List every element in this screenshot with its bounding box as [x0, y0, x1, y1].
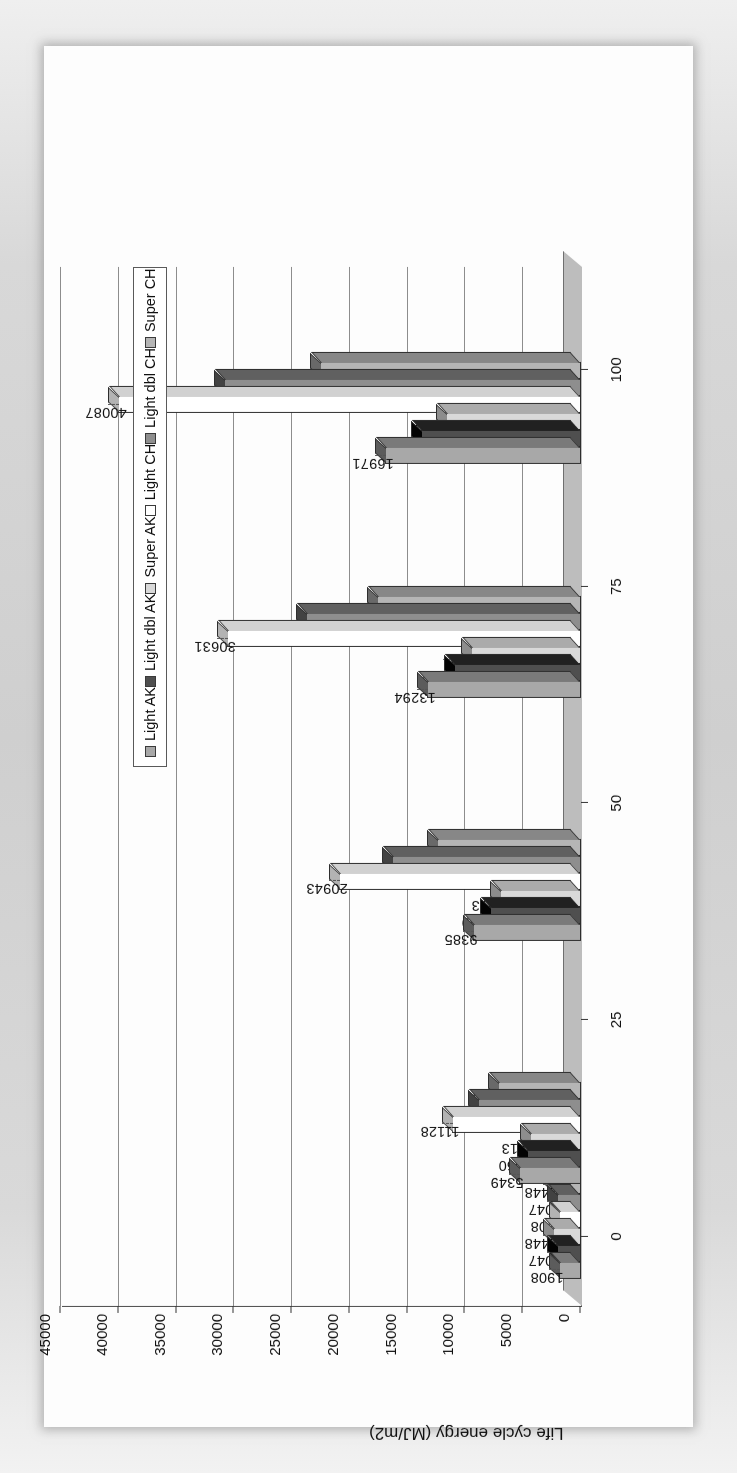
bar-value-label: 1908: [530, 1271, 563, 1287]
y-tick-label: 5000: [498, 1314, 515, 1347]
legend-item-label: Light dbl CH: [142, 348, 158, 428]
y-tick-label: 0: [556, 1314, 573, 1322]
y-tick-mark: [291, 1306, 292, 1313]
bar-side-face: [109, 386, 580, 397]
legend-item-label: Light CH: [142, 444, 158, 500]
bar-side-face: [376, 437, 580, 448]
bar-side-face: [445, 654, 580, 665]
chart-paper: 0500010000150002000025000300003500040000…: [44, 46, 693, 1427]
y-tick-mark: [522, 1306, 523, 1313]
legend-item[interactable]: Light CH: [142, 444, 158, 516]
legend-item-label: Light dbl AK: [142, 594, 158, 671]
y-tick-label: 35000: [151, 1314, 168, 1356]
x-tick-mark: [581, 586, 588, 587]
y-tick-label: 30000: [209, 1314, 226, 1356]
x-tick-mark: [581, 802, 588, 803]
gridline: [349, 267, 350, 1306]
bar-side-face: [481, 897, 580, 908]
bar-side-face: [464, 914, 580, 925]
legend-item[interactable]: Light AK: [142, 687, 158, 757]
bar-side-face: [418, 671, 580, 682]
x-tick-label: 50: [607, 795, 624, 812]
chart-figure: 0500010000150002000025000300003500040000…: [44, 46, 693, 1427]
bar-side-face: [428, 829, 580, 840]
y-tick-label: 20000: [324, 1314, 341, 1356]
bar-value-label: 40087: [85, 405, 126, 421]
chart-legend: Light AKLight dbl AKSuper AKLight CHLigh…: [133, 267, 167, 767]
bar-light-ak: 16971: [385, 447, 581, 464]
y-tick-mark: [175, 1306, 176, 1313]
bar-side-face: [297, 603, 580, 614]
legend-swatch-icon: [145, 676, 156, 687]
legend-item[interactable]: Super CH: [142, 268, 158, 348]
x-tick-mark: [581, 369, 588, 370]
legend-swatch-icon: [145, 433, 156, 444]
bar-side-face: [463, 637, 580, 648]
x-tick-label: 75: [607, 578, 624, 595]
legend-item-label: Super AK: [142, 516, 158, 577]
bar-value-label: 30631: [194, 639, 235, 655]
bar-value-label: 16971: [352, 456, 393, 472]
bar-side-face: [218, 620, 580, 631]
bar-light-ak: 13294: [427, 681, 581, 698]
gridline: [407, 267, 408, 1306]
legend-swatch-icon: [145, 337, 156, 348]
y-tick-mark: [464, 1306, 465, 1313]
bar-side-face: [412, 420, 580, 431]
legend-item[interactable]: Super AK: [142, 516, 158, 593]
bar-side-face: [510, 1157, 580, 1168]
gridline: [60, 267, 61, 1306]
scanned-page-background: 0500010000150002000025000300003500040000…: [0, 0, 737, 1473]
y-tick-mark: [406, 1306, 407, 1313]
gridline: [118, 267, 119, 1306]
bar-value-label: 11128: [421, 1124, 460, 1140]
bar-side-face: [311, 352, 580, 363]
bar-side-face: [521, 1123, 580, 1134]
y-tick-mark: [580, 1306, 581, 1313]
x-tick-mark: [581, 1236, 588, 1237]
y-tick-label: 45000: [36, 1314, 53, 1356]
legend-item-label: Light AK: [142, 687, 158, 741]
legend-item[interactable]: Light dbl AK: [142, 594, 158, 687]
y-axis-title: Life cycle energy (MJ/m2): [369, 1423, 564, 1443]
bar-value-label: 20943: [306, 882, 347, 898]
y-tick-mark: [233, 1306, 234, 1313]
legend-swatch-icon: [145, 583, 156, 594]
x-tick-label: 0: [607, 1233, 624, 1241]
bar-side-face: [437, 403, 580, 414]
bar-side-face: [492, 880, 580, 891]
x-tick-label: 100: [607, 357, 624, 382]
bar-light-ak: 9385: [473, 924, 581, 941]
bar-side-face: [518, 1140, 580, 1151]
bar-side-face: [444, 1106, 580, 1117]
x-tick-mark: [581, 1019, 588, 1020]
gridline: [233, 267, 234, 1306]
legend-swatch-icon: [145, 746, 156, 757]
bar-side-face: [368, 586, 580, 597]
y-tick-label: 40000: [93, 1314, 110, 1356]
bar-value-label: 5349: [491, 1175, 524, 1191]
y-tick-mark: [348, 1306, 349, 1313]
bar-side-face: [469, 1089, 580, 1100]
gridline: [176, 267, 177, 1306]
bar-side-face: [330, 863, 580, 874]
bar-light-ak: 5349: [519, 1167, 581, 1184]
bar-side-face: [490, 1072, 580, 1083]
y-tick-label: 15000: [382, 1314, 399, 1356]
y-tick-label: 25000: [267, 1314, 284, 1356]
bar-value-label: 9385: [444, 933, 477, 949]
rotated-content-container: 0500010000150002000025000300003500040000…: [44, 46, 693, 1427]
y-tick-label: 10000: [440, 1314, 457, 1356]
y-tick-mark: [117, 1306, 118, 1313]
bar-light-ak: 1908: [559, 1262, 581, 1279]
gridline: [291, 267, 292, 1306]
bar-side-face: [383, 846, 580, 857]
legend-item[interactable]: Light dbl CH: [142, 348, 158, 444]
legend-item-label: Super CH: [142, 268, 158, 332]
legend-swatch-icon: [145, 505, 156, 516]
x-tick-label: 25: [607, 1012, 624, 1029]
y-tick-mark: [60, 1306, 61, 1313]
bar-side-face: [215, 369, 580, 380]
bar-value-label: 13294: [395, 690, 436, 706]
